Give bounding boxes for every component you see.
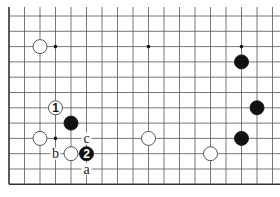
stone-circle bbox=[250, 101, 264, 115]
stone-circle bbox=[235, 55, 249, 69]
star-point bbox=[147, 45, 151, 49]
board-grid bbox=[9, 7, 280, 184]
white-stone bbox=[33, 40, 47, 54]
black-stone bbox=[235, 131, 249, 145]
stone-circle bbox=[33, 131, 47, 145]
move-letter-a: a bbox=[83, 162, 90, 177]
stone-circle bbox=[204, 147, 218, 161]
move-number-2: 2 bbox=[83, 147, 90, 161]
stone-circle bbox=[235, 131, 249, 145]
stone-circle bbox=[142, 131, 156, 145]
go-board: cba 12 bbox=[0, 0, 280, 197]
black-stone bbox=[250, 101, 264, 115]
move-letter-c: c bbox=[83, 131, 89, 146]
white-stone bbox=[204, 147, 218, 161]
stone-circle bbox=[33, 40, 47, 54]
stone-circle bbox=[64, 116, 78, 130]
white-stone: 1 bbox=[49, 101, 63, 116]
move-number-1: 1 bbox=[52, 101, 59, 115]
white-stone bbox=[64, 147, 78, 161]
black-stone: 2 bbox=[80, 147, 94, 162]
black-stone bbox=[235, 55, 249, 69]
star-point bbox=[54, 45, 58, 49]
star-point bbox=[240, 45, 244, 49]
white-stone bbox=[142, 131, 156, 145]
move-letter-b: b bbox=[52, 146, 59, 161]
stone-circle bbox=[64, 147, 78, 161]
star-point bbox=[54, 137, 58, 141]
white-stone bbox=[33, 131, 47, 145]
black-stone bbox=[64, 116, 78, 130]
